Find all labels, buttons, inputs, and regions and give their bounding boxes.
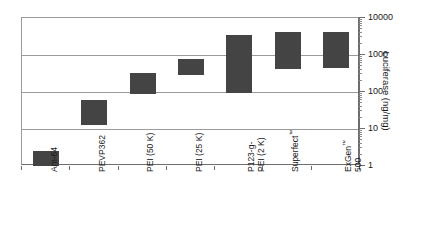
x-label-line: PEI (2 K) xyxy=(257,108,267,172)
x-label-line: PEI (50 K) xyxy=(146,108,156,172)
x-axis-category-label: PEI (50 K) xyxy=(146,108,156,172)
y-minor-tick xyxy=(359,73,362,74)
y-minor-tick xyxy=(359,19,362,20)
bar xyxy=(323,32,349,68)
x-label-line: ExGen™ xyxy=(344,108,354,172)
y-minor-tick xyxy=(359,80,362,81)
y-minor-tick xyxy=(359,97,362,98)
y-minor-tick xyxy=(359,93,362,94)
luciferase-range-bar-chart: 100001000100101 Luciferase (ng/mg) Am-64… xyxy=(0,0,436,238)
x-tick xyxy=(21,166,22,170)
y-minor-tick xyxy=(359,58,362,59)
y-minor-tick xyxy=(359,95,362,96)
bar xyxy=(130,73,156,93)
x-label-line: 500 xyxy=(353,108,363,172)
y-minor-tick xyxy=(359,60,362,61)
y-axis-title: Luciferase (ng/mg) xyxy=(378,17,394,165)
bar xyxy=(275,32,301,69)
bar xyxy=(178,59,204,76)
y-minor-tick xyxy=(359,28,362,29)
y-tick-label: 1 xyxy=(368,161,373,170)
x-tick xyxy=(214,166,215,170)
x-tick xyxy=(311,166,312,170)
y-minor-tick xyxy=(359,21,362,22)
x-axis-category-label: PEI (25 K) xyxy=(195,108,205,172)
x-axis-category-label: Am-64 xyxy=(50,108,60,172)
x-label-line: Superfect™ xyxy=(291,108,301,172)
x-tick xyxy=(118,166,119,170)
y-minor-tick xyxy=(359,69,362,70)
y-tick-label: 10 xyxy=(368,124,378,133)
x-axis-category-label: PEVP362 xyxy=(98,108,108,172)
x-axis-category-label: P123-g-PEI (2 K) xyxy=(247,108,266,172)
x-label-line: PEVP362 xyxy=(98,108,108,172)
plot-area xyxy=(21,17,359,165)
y-minor-tick xyxy=(359,56,362,57)
gridline-1000 xyxy=(22,55,358,56)
y-minor-tick xyxy=(359,32,362,33)
y-minor-tick xyxy=(359,36,362,37)
y-minor-tick xyxy=(359,23,362,24)
y-minor-tick xyxy=(359,25,362,26)
gridline-10 xyxy=(22,129,358,130)
y-minor-tick xyxy=(359,65,362,66)
gridline-100 xyxy=(22,92,358,93)
x-label-line: PEI (25 K) xyxy=(195,108,205,172)
x-axis-category-label: ExGen™500 xyxy=(344,108,363,172)
x-tick xyxy=(69,166,70,170)
x-axis-category-label: Superfect™ xyxy=(291,108,301,172)
y-minor-tick xyxy=(359,106,362,107)
y-minor-tick xyxy=(359,102,362,103)
x-tick xyxy=(166,166,167,170)
bar xyxy=(226,35,252,93)
y-minor-tick xyxy=(359,43,362,44)
y-minor-tick xyxy=(359,62,362,63)
x-label-line: Am-64 xyxy=(50,108,60,172)
y-minor-tick xyxy=(359,99,362,100)
